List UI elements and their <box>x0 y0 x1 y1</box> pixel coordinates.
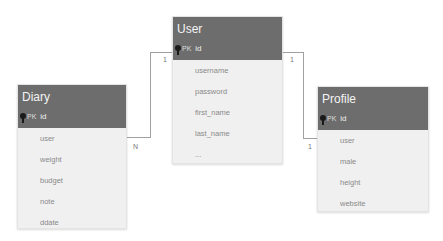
field: male <box>318 151 428 172</box>
field: website <box>318 193 428 214</box>
field: user <box>18 128 126 149</box>
entity-title: Diary <box>18 85 126 106</box>
pk-label: PK <box>327 108 336 130</box>
cardinality-user-profile-profile: 1 <box>308 143 312 150</box>
connector-user-profile <box>303 52 304 139</box>
key-icon <box>20 113 26 122</box>
entity-diary[interactable]: Diary PK id user weight budget note ddat… <box>17 84 127 229</box>
cardinality-user-diary-diary: N <box>133 143 138 150</box>
field: first_name <box>173 102 282 123</box>
entity-profile-header: Profile PK id <box>318 87 428 130</box>
connector-user-diary <box>127 137 151 138</box>
entity-title: Profile <box>318 87 428 108</box>
pk-field: id <box>195 38 201 60</box>
connector-user-diary <box>150 52 172 53</box>
field: budget <box>18 170 126 191</box>
cardinality-user-profile-user: 1 <box>290 56 294 63</box>
pk-field: id <box>340 108 346 130</box>
key-icon <box>175 45 181 54</box>
pk-label: PK <box>182 38 191 60</box>
connector-user-profile <box>283 52 304 53</box>
entity-user[interactable]: User PK id username password first_name … <box>172 16 283 164</box>
field: username <box>173 60 282 81</box>
entity-title: User <box>173 17 282 38</box>
pk-field: id <box>40 106 46 128</box>
pk-label: PK <box>27 106 36 128</box>
entity-profile[interactable]: Profile PK id user male height website <box>317 86 429 212</box>
entity-user-header: User PK id <box>173 17 282 60</box>
connector-user-diary <box>150 52 151 138</box>
primary-key-row: PK id <box>18 106 126 128</box>
field: height <box>318 172 428 193</box>
field: password <box>173 81 282 102</box>
field: last_name <box>173 123 282 144</box>
primary-key-row: PK id <box>318 108 428 130</box>
primary-key-row: PK id <box>173 38 282 60</box>
key-icon <box>320 115 326 124</box>
field: ddate <box>18 212 126 233</box>
field: weight <box>18 149 126 170</box>
entity-diary-header: Diary PK id <box>18 85 126 128</box>
cardinality-user-diary-user: 1 <box>163 56 167 63</box>
field: note <box>18 191 126 212</box>
field: user <box>318 130 428 151</box>
field: ... <box>173 144 282 165</box>
connector-user-profile <box>303 138 317 139</box>
